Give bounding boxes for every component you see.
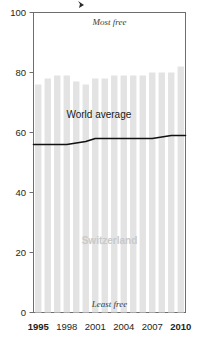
bar-item [159,73,165,313]
x-tick-label-2007: 2007 [142,321,163,332]
bar-series-switzerland [35,67,184,313]
bar-item [149,73,155,313]
annotation-world-average: World average [66,109,131,120]
annotation-most-free: Most free [92,17,127,27]
y-axis: 100 80 60 40 20 0 [10,7,33,318]
x-tick-label-1995: 1995 [28,321,50,332]
arrow-marker-icon [78,1,84,8]
x-tick-label-2001: 2001 [85,321,106,332]
bar-item [140,76,146,313]
y-tick-label-0: 0 [21,307,26,318]
bar-item [54,76,60,313]
x-tick-label-2010: 2010 [170,321,191,332]
annotation-least-free: Least free [91,299,127,309]
y-tick-label-100: 100 [10,7,26,18]
y-tick-label-40: 40 [15,187,26,198]
bar-item [178,67,184,313]
y-tick-label-20: 20 [15,247,26,258]
x-tick-label-2004: 2004 [113,321,134,332]
x-axis: 1995 1998 2001 2004 2007 2010 [28,321,192,332]
y-tick-label-60: 60 [15,127,26,138]
bar-item [35,85,41,313]
annotation-switzerland: Switzerland [82,235,138,246]
bar-item [45,79,51,313]
x-tick-label-1998: 1998 [56,321,77,332]
bar-item [168,73,174,313]
y-tick-label-80: 80 [15,67,26,78]
economic-freedom-chart: 100 80 60 40 20 0 1995 1998 2001 2004 20… [0,0,199,354]
chart-container: 100 80 60 40 20 0 1995 1998 2001 2004 20… [0,0,199,354]
